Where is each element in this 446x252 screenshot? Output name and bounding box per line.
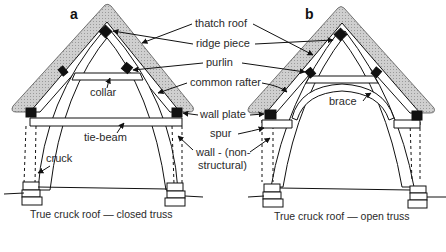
padstone-right-a <box>165 183 185 206</box>
caption-b: True cruck roof — open truss <box>274 210 410 222</box>
leader-wall-a <box>178 136 193 150</box>
label-tie-beam: tie-beam <box>84 131 127 143</box>
caption-a: True cruck roof — closed truss <box>30 208 173 220</box>
leader-spur <box>238 128 264 134</box>
wall-plate-left-b <box>265 110 276 119</box>
wall-dash-a-l2 <box>35 126 36 184</box>
floor-line-a <box>38 187 167 189</box>
label-collar: collar <box>90 86 117 98</box>
panel-b: b <box>248 6 446 222</box>
cruck-roof-diagram: a <box>0 0 446 252</box>
label-wall-plate: wall plate <box>199 108 246 120</box>
ground-line-a-right <box>185 196 203 197</box>
collar-beam-b <box>306 76 378 83</box>
wall-plate-left-a <box>26 108 36 117</box>
collar-beam-a <box>72 73 143 80</box>
label-thatch-roof: thatch roof <box>195 17 248 29</box>
wall-plate-right-b <box>412 111 422 120</box>
label-ridge-piece: ridge piece <box>196 37 250 49</box>
label-wall-line1: wall - (non- <box>195 146 251 158</box>
leader-wall-b <box>250 138 270 152</box>
leader-wall-plate-a <box>183 113 198 115</box>
ground-line-a-left <box>4 193 24 194</box>
leader-thatch-roof-b <box>253 24 313 55</box>
panel-a-letter: a <box>70 6 78 22</box>
label-brace: brace <box>329 95 357 107</box>
wall-dash-a-l1 <box>24 126 26 184</box>
label-wall-line2: structural) <box>198 159 247 171</box>
leader-wall-plate-b <box>250 114 264 115</box>
padstone-left-a <box>22 182 42 205</box>
panel-b-letter: b <box>305 6 314 22</box>
label-common-rafter: common rafter <box>190 76 261 88</box>
spur-left-b <box>262 120 292 128</box>
padstone-right-b <box>408 186 427 208</box>
floor-line-b <box>280 188 410 190</box>
label-spur: spur <box>210 127 232 139</box>
ground-line-b-left <box>248 196 264 197</box>
tie-beam-a <box>30 118 182 126</box>
padstone-left-b <box>263 184 283 207</box>
panel-a: a <box>4 4 203 220</box>
spur-right-b <box>394 120 420 128</box>
wall-plate-right-a <box>172 108 182 117</box>
label-cruck: cruck <box>46 152 73 164</box>
label-purlin: purlin <box>206 56 233 68</box>
